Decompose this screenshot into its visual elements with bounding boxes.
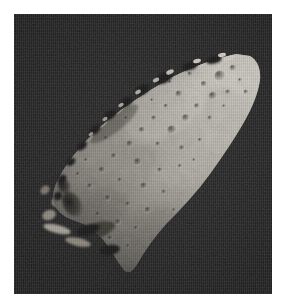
asteroid-body [14, 14, 272, 294]
screenshot-root [0, 0, 286, 308]
asteroid-photograph [14, 14, 272, 294]
